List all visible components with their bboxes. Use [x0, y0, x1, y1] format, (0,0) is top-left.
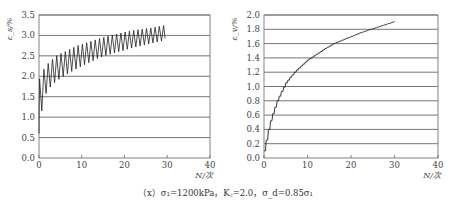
- y-tick-label: 2.0: [246, 10, 260, 20]
- x-tick-label: 30: [389, 160, 400, 170]
- x-tick-label: 0: [36, 160, 41, 170]
- y-tick-label: 1.0: [21, 112, 35, 122]
- figure-caption: （x）σ₁=1200kPa，K꜀=2.0，σ_d=0.85σ₁: [0, 186, 451, 198]
- y-tick-label: 1.6: [246, 39, 260, 49]
- x-axis-label: N/次: [422, 171, 442, 180]
- x-tick-label: 10: [76, 160, 87, 170]
- y-tick-label: 0.0: [246, 153, 260, 163]
- y-tick-label: 2.5: [21, 51, 35, 61]
- y-tick-label: 0.5: [21, 133, 35, 143]
- y-tick-label: 1.0: [246, 82, 260, 92]
- x-tick-label: 30: [162, 160, 173, 170]
- x-tick-label: 0: [261, 160, 266, 170]
- y-tick-label: 0.4: [246, 124, 260, 134]
- y-tick-label: 0.0: [21, 153, 35, 163]
- x-tick-label: 40: [205, 160, 216, 170]
- y-axis-label: ε_v/%: [230, 17, 239, 41]
- x-tick-label: 40: [433, 160, 444, 170]
- y-tick-label: 0.6: [246, 110, 260, 120]
- y-tick-label: 3.0: [21, 30, 35, 40]
- figure: 0.00.51.01.52.02.53.03.5010203040N/次ε_s/…: [0, 0, 451, 205]
- x-tick-label: 20: [346, 160, 357, 170]
- y-tick-label: 1.5: [21, 92, 35, 102]
- y-tick-label: 1.8: [246, 24, 260, 34]
- y-tick-label: 0.8: [246, 96, 260, 106]
- y-axis-label: ε_s/%: [5, 17, 14, 40]
- y-tick-label: 3.5: [21, 10, 35, 20]
- chart-axial-strain: 0.00.51.01.52.02.53.03.5010203040N/次ε_s/…: [5, 10, 215, 180]
- y-tick-label: 0.2: [246, 139, 260, 149]
- y-tick-label: 1.2: [246, 67, 260, 77]
- y-tick-label: 1.4: [246, 53, 260, 63]
- x-tick-label: 20: [119, 160, 130, 170]
- chart-volumetric-strain: 0.00.20.40.60.81.01.21.41.61.82.00102030…: [230, 10, 443, 180]
- y-tick-label: 2.0: [21, 71, 35, 81]
- x-axis-label: N/次: [194, 171, 214, 180]
- x-tick-label: 10: [302, 160, 313, 170]
